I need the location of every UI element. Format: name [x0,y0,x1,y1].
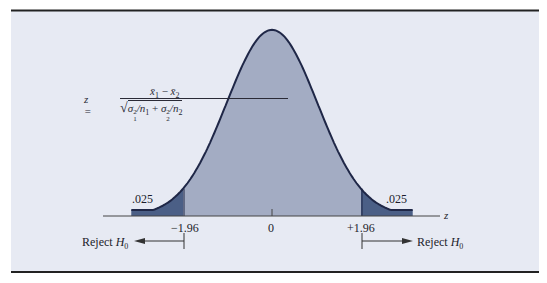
formula-lhs: z = [84,93,91,117]
tail-right-label: .025 [386,193,407,205]
h-subscript: 0 [124,242,128,251]
plus-sign: + [149,102,161,114]
reject-text: Reject [417,235,451,249]
tick-label-zero: 0 [268,222,274,234]
sigma2-sub: 2 [166,116,170,123]
h-subscript: 0 [459,242,463,251]
sqrt-icon: √ [120,100,128,115]
tick-label-right: +1.96 [347,222,375,234]
minus-sign: − [159,85,171,97]
tail-left-label: .025 [132,193,153,205]
n1: /n [137,102,146,114]
n2-sub: 2 [178,108,182,117]
reject-text: Reject [82,235,116,249]
axis-label-z: z [444,210,448,221]
tick-label-left: −1.96 [171,222,199,234]
reject-h0-left: Reject H0 [82,236,128,251]
normal-distribution-figure: z = x̄1 − x̄2 √σ21/n1 + σ22/n2 .025 .025… [0,0,547,283]
sigma1-sub: 1 [133,116,137,123]
fraction-bar [120,98,288,99]
reject-h0-right: Reject H0 [417,236,463,251]
formula-denominator: √σ21/n1 + σ22/n2 [120,100,182,123]
